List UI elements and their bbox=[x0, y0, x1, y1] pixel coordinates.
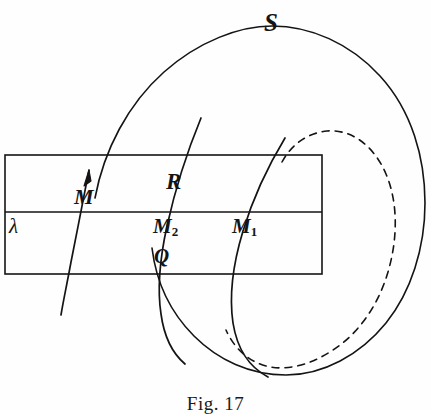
label-point-M1: M1 bbox=[232, 216, 257, 237]
surface-outer-boundary-curve bbox=[95, 26, 425, 375]
label-point-M: M bbox=[74, 186, 94, 208]
label-point-M2-base: M bbox=[153, 214, 172, 238]
label-point-M2: M2 bbox=[153, 216, 178, 237]
label-point-M2-subscript: 2 bbox=[172, 224, 179, 239]
surface-inner-boundary-dashed-curve bbox=[226, 131, 395, 368]
label-point-M1-base: M bbox=[232, 214, 251, 238]
figure-caption: Fig. 17 bbox=[0, 393, 431, 415]
arc-through-M1-curve bbox=[231, 138, 285, 377]
label-surface-S: S bbox=[264, 10, 278, 35]
label-point-Q: Q bbox=[154, 246, 169, 267]
label-strip-lambda: λ bbox=[9, 216, 18, 237]
label-point-M1-subscript: 1 bbox=[251, 224, 258, 239]
label-point-R: R bbox=[166, 170, 181, 193]
